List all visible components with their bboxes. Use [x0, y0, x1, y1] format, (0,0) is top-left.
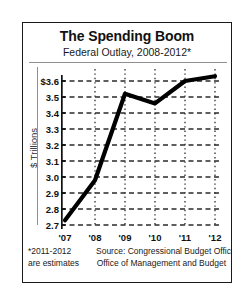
- subtitle-divider: [29, 62, 227, 63]
- chart-figure: The Spending Boom Federal Outlay, 2008-2…: [22, 22, 232, 283]
- footnote-line-2: are estimates: [28, 258, 102, 270]
- source-line-1: Source: Congressional Budget Office: [96, 246, 226, 258]
- y-axis-tick-label: 3.4: [33, 108, 59, 119]
- x-axis-tick-label: '10: [149, 232, 162, 243]
- y-axis-tick-label: 2.7: [33, 220, 59, 231]
- footnote-line-1: *2011-2012: [28, 246, 102, 258]
- vertical-gridlines: [95, 69, 215, 225]
- chart-subtitle: Federal Outlay, 2008-2012*: [23, 46, 231, 58]
- chart-title: The Spending Boom: [23, 28, 231, 44]
- source-line-2: Office of Management and Budget: [96, 258, 226, 270]
- x-axis-tick-label: '07: [59, 232, 72, 243]
- y-axis-tick-label: 2.9: [33, 188, 59, 199]
- chart-footer: *2011-2012 are estimates Source: Congres…: [23, 244, 231, 278]
- x-axis-tick-label: '12: [209, 232, 222, 243]
- x-axis-tick-label: '09: [119, 232, 132, 243]
- x-axis-tick-label: '11: [179, 232, 191, 243]
- horizontal-gridlines: [61, 81, 221, 225]
- y-axis-tick-label: 3.0: [33, 172, 59, 183]
- y-axis-tick-label: 3.2: [33, 140, 59, 151]
- y-axis-tick-label: 3.5: [33, 92, 59, 103]
- y-axis-tick-label: $3.6: [33, 76, 59, 87]
- x-axis-tick-label: '08: [89, 232, 102, 243]
- footnote: *2011-2012 are estimates: [28, 246, 102, 269]
- plot-area: [61, 69, 223, 229]
- source-credit: Source: Congressional Budget Office Offi…: [96, 246, 226, 269]
- y-axis-tick-label: 3.3: [33, 124, 59, 135]
- line-chart-svg: [61, 69, 223, 229]
- y-axis-tick-label: 3.1: [33, 156, 59, 167]
- y-axis-tick-label: 2.8: [33, 204, 59, 215]
- y-axis-tick-labels: $3.63.53.43.33.23.13.02.92.82.7: [29, 69, 59, 229]
